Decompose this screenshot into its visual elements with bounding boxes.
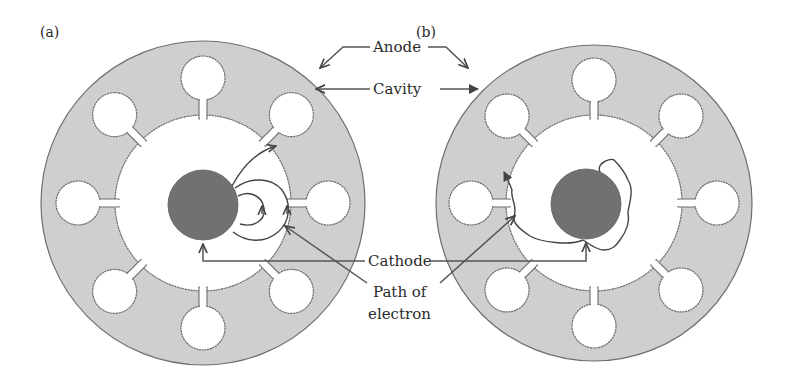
anode-leader-b (428, 47, 468, 68)
slot-mask (591, 285, 597, 293)
slot-mask (94, 200, 102, 206)
slot-mask (113, 200, 121, 206)
slot-mask (591, 113, 597, 121)
slot-mask (200, 304, 206, 312)
slot-mask (504, 200, 512, 206)
cavity (572, 58, 616, 102)
slot-mask (693, 200, 701, 206)
cavity (695, 181, 739, 225)
cathode-a (168, 170, 238, 240)
panel-a-label: (a) (40, 24, 59, 40)
slot-mask (200, 94, 206, 102)
cavity (449, 181, 493, 225)
panel-a: (a) (40, 24, 365, 365)
panel-b: (b) (416, 24, 752, 361)
slot-mask (200, 285, 206, 293)
slot-mask (591, 96, 597, 104)
slot-mask (676, 200, 684, 206)
slot-mask (304, 200, 312, 206)
cavity (572, 304, 616, 348)
anode-label: Anode (372, 38, 421, 56)
cavity-label: Cavity (373, 80, 422, 98)
cavity (181, 56, 225, 100)
slot-mask (200, 113, 206, 121)
slot-mask (285, 200, 293, 206)
cavity (181, 306, 225, 350)
slot-mask (487, 200, 495, 206)
cavity (56, 181, 100, 225)
cathode-label: Cathode (368, 252, 432, 270)
slot-mask (591, 302, 597, 310)
cavity (306, 181, 350, 225)
cathode-b (551, 169, 621, 239)
path-label-line2: electron (368, 305, 431, 323)
magnetron-diagram: (a) (b) Anode Cavity Cathod (0, 0, 786, 388)
path-label-line1: Path of (373, 283, 428, 301)
anode-leader-a (320, 47, 370, 68)
